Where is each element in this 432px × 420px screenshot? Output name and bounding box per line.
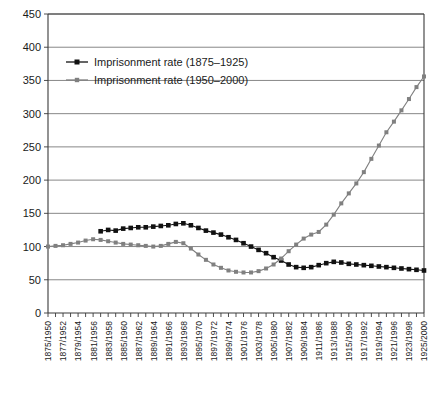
series-2-marker — [354, 181, 358, 185]
series-2-marker — [339, 201, 343, 205]
xtick-label-1893-1968: 1893/1968 — [179, 321, 189, 361]
series-1-marker — [249, 244, 254, 249]
series-1-marker — [347, 262, 352, 267]
xtick-label-1925-2000: 1925/2000 — [419, 321, 429, 361]
imprisonment-rate-line-chart: 0501001502002503003504004501875/19501877… — [0, 0, 432, 420]
series-1-marker — [143, 225, 148, 230]
series-1-marker — [422, 268, 427, 273]
series-1-marker — [324, 261, 329, 266]
series-1-marker — [369, 264, 374, 269]
series-1-marker — [181, 221, 186, 226]
xtick-label-1905-1980: 1905/1980 — [269, 321, 279, 361]
series-2-marker — [84, 239, 88, 243]
series-1-marker — [264, 251, 269, 256]
series-1-marker — [204, 228, 209, 233]
xtick-label-1923-1998: 1923/1998 — [404, 321, 414, 361]
series-1-marker — [377, 264, 382, 269]
series-1-marker — [106, 228, 111, 233]
series-2-marker — [219, 266, 223, 270]
xtick-label-1921-1996: 1921/1996 — [389, 321, 399, 361]
series-1-marker — [128, 226, 133, 231]
series-1-marker — [189, 223, 194, 228]
legend-marker-2 — [75, 78, 79, 82]
series-2-marker — [129, 243, 133, 247]
series-2-marker — [249, 270, 253, 274]
series-1-marker — [166, 223, 171, 228]
series-1-marker — [113, 228, 118, 233]
series-2-marker — [279, 257, 283, 261]
xtick-label-1907-1982: 1907/1982 — [284, 321, 294, 361]
series-2-marker — [422, 74, 426, 78]
series-1-marker — [294, 265, 299, 270]
xtick-label-1891-1966: 1891/1966 — [164, 321, 174, 361]
series-2-marker — [136, 243, 140, 247]
series-2-marker — [392, 120, 396, 124]
series-1-marker — [286, 262, 291, 267]
series-2-marker — [264, 266, 268, 270]
series-1-marker — [98, 229, 103, 234]
series-2-marker — [257, 269, 261, 273]
series-2-marker — [324, 223, 328, 227]
series-1-marker — [121, 226, 126, 231]
series-2-marker — [234, 270, 238, 274]
series-2-marker — [151, 245, 155, 249]
series-1-marker — [211, 230, 216, 235]
series-2-marker — [362, 170, 366, 174]
series-1-marker — [241, 241, 246, 246]
xtick-label-1879-1954: 1879/1954 — [73, 321, 83, 361]
series-2 — [46, 74, 426, 274]
legend-marker-1 — [75, 60, 80, 65]
series-2-marker — [46, 245, 50, 249]
series-1-marker — [174, 222, 179, 227]
series-1-marker — [219, 232, 224, 237]
series-1-marker — [384, 265, 389, 270]
series-1-marker — [339, 260, 344, 265]
series-1-marker — [354, 262, 359, 267]
series-2-marker — [204, 258, 208, 262]
series-2-marker — [302, 237, 306, 241]
ytick-label-350: 350 — [23, 74, 41, 86]
xtick-label-1909-1984: 1909/1984 — [299, 321, 309, 361]
ytick-label-0: 0 — [35, 307, 41, 319]
series-1-marker — [414, 268, 419, 273]
series-1-marker — [309, 265, 314, 270]
series-2-marker — [211, 263, 215, 267]
series-1-marker — [407, 267, 412, 272]
series-2-marker — [54, 244, 58, 248]
chart-canvas: 0501001502002503003504004501875/19501877… — [0, 0, 432, 420]
series-2-marker — [347, 191, 351, 195]
series-1-marker — [301, 266, 306, 271]
xtick-label-1881-1956: 1881/1956 — [89, 321, 99, 361]
series-2-marker — [91, 237, 95, 241]
series-2-marker — [226, 268, 230, 272]
xtick-label-1897-1972: 1897/1972 — [209, 321, 219, 361]
xtick-label-1887-1962: 1887/1962 — [134, 321, 144, 361]
series-2-marker — [309, 233, 313, 237]
series-2-marker — [144, 244, 148, 248]
series-2-marker — [114, 241, 118, 245]
ytick-label-200: 200 — [23, 174, 41, 186]
series-2-marker — [407, 97, 411, 101]
series-2-marker — [399, 108, 403, 112]
xtick-label-1919-1994: 1919/1994 — [374, 321, 384, 361]
series-1-marker — [151, 224, 156, 229]
series-2-marker — [272, 263, 276, 267]
series-2-marker — [294, 243, 298, 247]
series-1-marker — [399, 266, 404, 271]
xtick-label-1901-1976: 1901/1976 — [239, 321, 249, 361]
series-2-marker — [174, 240, 178, 244]
series-2-marker — [99, 238, 103, 242]
ytick-label-400: 400 — [23, 41, 41, 53]
series-2-marker — [242, 270, 246, 274]
series-1-marker — [226, 235, 231, 240]
series-2-marker — [414, 85, 418, 89]
series-2-marker — [76, 241, 80, 245]
series-1-marker — [392, 266, 397, 271]
ytick-label-150: 150 — [23, 207, 41, 219]
ytick-label-250: 250 — [23, 141, 41, 153]
series-2-marker — [106, 239, 110, 243]
series-2-marker — [332, 213, 336, 217]
series-1-marker — [271, 255, 276, 260]
series-2-marker — [61, 243, 65, 247]
series-1-marker — [234, 238, 239, 243]
